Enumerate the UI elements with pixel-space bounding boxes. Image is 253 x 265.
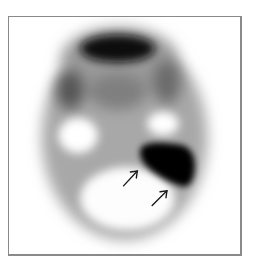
scintigraphy-scan <box>9 17 240 254</box>
high-uptake-top <box>80 35 155 63</box>
image-frame <box>8 16 242 256</box>
